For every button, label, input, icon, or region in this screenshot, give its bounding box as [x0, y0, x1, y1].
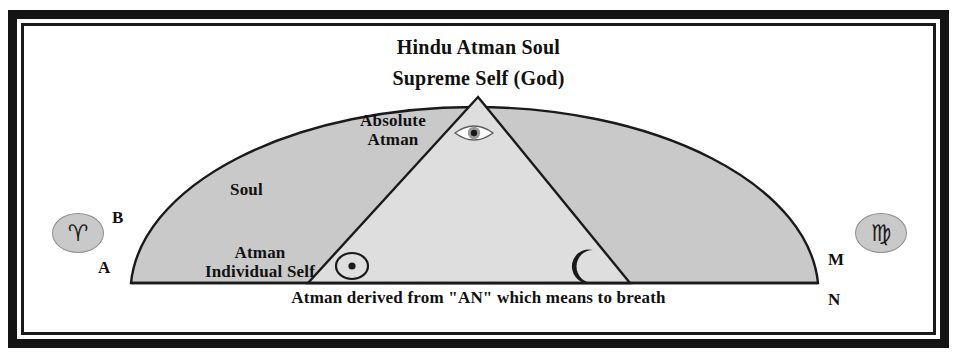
label-individual-self-line1: Atman	[175, 243, 345, 262]
diagram-caption: Atman derived from "AN" which means to b…	[0, 288, 957, 308]
point-label-b: B	[112, 208, 124, 228]
label-absolute-atman-line2: Atman	[338, 130, 448, 149]
label-individual-self: Atman Individual Self	[175, 243, 345, 281]
point-label-m: M	[828, 250, 844, 270]
diagram-title-line1: Hindu Atman Soul	[0, 36, 957, 59]
label-absolute-atman-line1: Absolute	[338, 111, 448, 130]
diagram-title-line2: Supreme Self (God)	[0, 67, 957, 90]
label-individual-self-line2: Individual Self	[175, 262, 345, 281]
virgo-icon: ♍	[855, 213, 907, 253]
point-label-a: A	[98, 258, 110, 278]
label-absolute-atman: Absolute Atman	[338, 111, 448, 149]
aries-icon: ♈	[52, 213, 104, 253]
diagram-frame: Hindu Atman Soul Supreme Self (God) Abso…	[0, 0, 957, 356]
label-soul: Soul	[230, 180, 263, 200]
